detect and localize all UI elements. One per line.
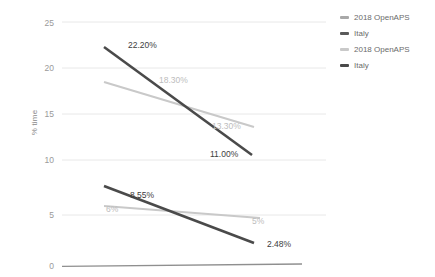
legend-item-italy-1[interactable]: Italy [340, 26, 435, 41]
plot-svg [62, 0, 326, 277]
y-tick-25: 25 [28, 19, 54, 28]
data-label-2-48: 2.48% [267, 240, 291, 249]
y-tick-5: 5 [28, 211, 54, 220]
legend-item-openaps-1[interactable]: 2018 OpenAPS [340, 10, 435, 25]
legend-item-openaps-2[interactable]: 2018 OpenAPS [340, 42, 435, 57]
legend-label: Italy [354, 30, 369, 38]
legend-label: 2018 OpenAPS [354, 46, 410, 54]
plot-area: 22.20% 18.30% 13.30% 11.00% 8.55% 6% 5% … [62, 0, 326, 277]
line-chart: % time 25 20 15 10 5 0 22.20% [0, 0, 435, 277]
data-label-5: 5% [252, 217, 264, 226]
data-label-8-55: 8.55% [130, 191, 154, 200]
y-axis-tick-labels: 25 20 15 10 5 0 [26, 0, 54, 277]
legend-swatch-icon [340, 48, 349, 51]
zero-baseline [62, 264, 302, 267]
y-tick-15: 15 [28, 110, 54, 119]
legend-swatch-icon [340, 32, 349, 35]
legend-item-italy-2[interactable]: Italy [340, 58, 435, 73]
data-label-6: 6% [106, 205, 118, 214]
y-tick-10: 10 [28, 156, 54, 165]
legend-label: Italy [354, 62, 369, 70]
data-label-18-30: 18.30% [159, 76, 188, 85]
data-label-13-30: 13.30% [212, 122, 241, 131]
y-tick-20: 20 [28, 64, 54, 73]
y-tick-0: 0 [28, 262, 54, 271]
series-line-italy-upper [104, 47, 252, 155]
data-label-11-00: 11.00% [210, 150, 238, 159]
chart-legend: 2018 OpenAPS Italy 2018 OpenAPS Italy [340, 10, 435, 74]
legend-label: 2018 OpenAPS [354, 14, 410, 22]
legend-swatch-icon [340, 64, 349, 67]
legend-swatch-icon [340, 16, 349, 19]
gridlines [62, 22, 326, 215]
data-label-22-20: 22.20% [128, 41, 157, 50]
